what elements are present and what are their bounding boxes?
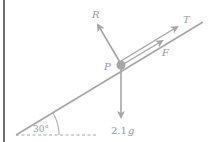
particle-label: P [103,61,111,72]
friction-label: F [161,47,170,58]
incline-plane [16,22,203,135]
force-diagram: 30° R T F 2.1g P [0,0,218,142]
weight-label: 2.1g [111,125,134,136]
friction-arrow [122,41,162,65]
weight-unit: g [128,125,134,136]
weight-coefficient: 2.1 [111,125,127,136]
normal-force-label: R [91,9,100,20]
tension-label: T [183,14,191,25]
angle-label: 30° [33,124,49,134]
normal-force-arrow [98,25,121,64]
particle-p [117,61,126,70]
angle-arc [53,113,59,135]
